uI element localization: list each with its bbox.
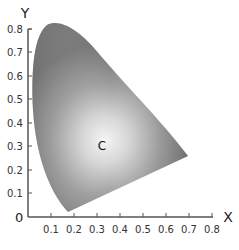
x-tick-label: 0.2 [66,224,82,235]
x-tick-label: 0.1 [43,224,59,235]
x-tick-label: 0.3 [89,224,105,235]
x-axis-title: X [223,209,233,225]
y-axis-title: Y [20,5,30,21]
y-tick-label: 0.1 [7,188,23,199]
y-tick-label: 0.5 [7,94,23,105]
y-tick-label: 0.4 [7,118,23,129]
x-tick-label: 0.8 [204,224,220,235]
x-tick-label: 0.4 [112,224,128,235]
x-tick-label: 0.5 [135,224,151,235]
white-point-label: C [98,139,106,153]
y-tick-label: 0.8 [7,24,23,35]
y-tick-label: 0.3 [7,141,23,152]
origin-label: 0 [15,210,23,225]
x-tick-label: 0.6 [158,224,174,235]
y-tick-label: 0.2 [7,165,23,176]
spectral-locus-shade [32,23,188,212]
y-tick-label: 0.6 [7,71,23,82]
y-tick-label: 0.7 [7,47,23,58]
x-tick-label: 0.7 [181,224,197,235]
chromaticity-diagram: 0.1 0.2 0.3 0.4 0.5 0.6 0.7 0.8 0.1 0.2 … [0,0,239,250]
